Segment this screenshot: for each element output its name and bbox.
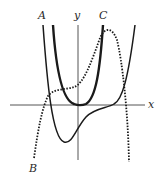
x-axis-label: x — [148, 98, 155, 111]
curve-a — [43, 25, 135, 142]
curve-label-c: C — [99, 9, 108, 22]
function-graph: A y C x B — [0, 0, 160, 178]
curve-b — [34, 30, 129, 162]
curve-label-b: B — [28, 162, 37, 175]
y-axis-label: y — [73, 9, 81, 22]
curve-label-a: A — [37, 9, 46, 22]
